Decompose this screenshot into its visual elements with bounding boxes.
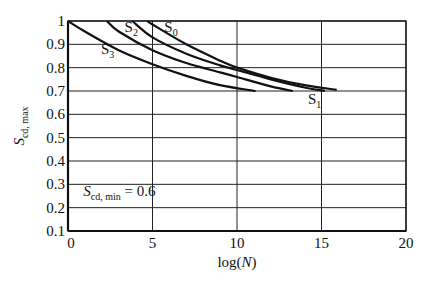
y-tick-label: 0.5 <box>46 130 65 146</box>
x-axis-label: log(N) <box>217 254 256 271</box>
x-tick-label: 10 <box>230 235 245 251</box>
y-tick-label: 0.9 <box>46 36 65 52</box>
chart-container: 05101520 0.10.20.30.40.50.60.70.80.91 S0… <box>0 0 434 284</box>
chart-svg: 05101520 0.10.20.30.40.50.60.70.80.91 S0… <box>0 0 434 284</box>
y-axis-label-text: Scd, max <box>11 106 30 145</box>
label-s1: S1 <box>308 91 321 110</box>
y-tick-label: 1 <box>58 13 66 29</box>
series-labels: S0S1S2S3 <box>101 19 321 110</box>
y-tick-label: 0.7 <box>46 83 65 99</box>
y-tick-label: 0.6 <box>46 106 65 122</box>
y-tick-label: 0.4 <box>46 153 65 169</box>
y-axis-ticks: 0.10.20.30.40.50.60.70.80.91 <box>46 13 65 239</box>
annotation-text: Scd, min = 0.6 <box>83 183 156 202</box>
curve-s3 <box>68 21 256 91</box>
x-tick-label: 20 <box>399 235 414 251</box>
x-tick-label: 0 <box>67 235 75 251</box>
y-tick-label: 0.8 <box>46 60 65 76</box>
curve-s1 <box>132 21 325 91</box>
x-axis-ticks: 05101520 <box>67 235 413 251</box>
annotation: Scd, min = 0.6 <box>83 183 156 202</box>
y-tick-label: 0.3 <box>46 176 65 192</box>
label-s3: S3 <box>101 41 114 60</box>
y-tick-label: 0.1 <box>46 223 65 239</box>
x-tick-label: 5 <box>149 235 157 251</box>
x-tick-label: 15 <box>314 235 329 251</box>
y-axis-label: Scd, max <box>11 106 30 145</box>
y-tick-label: 0.2 <box>46 200 65 216</box>
